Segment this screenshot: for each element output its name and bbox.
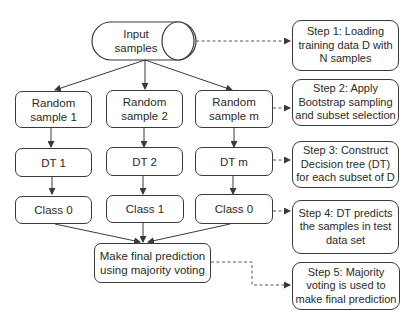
input-samples-label: Input samples <box>100 24 172 58</box>
step-2-box: Step 2: Apply Bootstrap sampling and sub… <box>292 79 399 126</box>
step-4-box: Step 4: DT predicts the samples in test … <box>292 200 399 254</box>
random-sample-2-box: Random sample 2 <box>106 90 183 128</box>
class-2-label: Class 1 <box>126 202 164 216</box>
class-2-box: Class 1 <box>106 195 184 223</box>
random-sample-m-box: Random sample m <box>195 90 273 128</box>
final-prediction-label: Make final prediction using majority vot… <box>100 249 205 277</box>
step-3-box: Step 3: Construct Decision tree (DT) for… <box>292 141 399 188</box>
class-m-label: Class 0 <box>215 202 253 216</box>
random-sample-1-label: Random sample 1 <box>30 96 77 124</box>
class-m-box: Class 0 <box>195 194 273 224</box>
random-sample-m-label: Random sample m <box>209 95 259 123</box>
step-4-label: Step 4: DT predicts the samples in test … <box>299 207 393 248</box>
dt-m-box: DT m <box>195 147 273 176</box>
random-sample-1-box: Random sample 1 <box>15 91 92 128</box>
step-5-label: Step 5: Majority voting is used to make … <box>296 266 397 307</box>
class-1-box: Class 0 <box>15 196 92 224</box>
step-2-label: Step 2: Apply Bootstrap sampling and sub… <box>295 82 395 123</box>
dt-2-box: DT 2 <box>106 147 183 176</box>
step-3-label: Step 3: Construct Decision tree (DT) for… <box>296 144 394 185</box>
dt-1-box: DT 1 <box>15 148 92 177</box>
dt-1-label: DT 1 <box>41 156 66 170</box>
dt-2-label: DT 2 <box>132 155 157 169</box>
step-5-box: Step 5: Majority voting is used to make … <box>292 262 400 310</box>
random-sample-2-label: Random sample 2 <box>121 95 168 123</box>
class-1-label: Class 0 <box>34 203 72 217</box>
dt-m-label: DT m <box>220 155 248 169</box>
final-prediction-box: Make final prediction using majority vot… <box>94 243 211 283</box>
step-1-box: Step 1: Loading training data D with N s… <box>292 20 399 71</box>
step-1-label: Step 1: Loading training data D with N s… <box>298 25 392 66</box>
